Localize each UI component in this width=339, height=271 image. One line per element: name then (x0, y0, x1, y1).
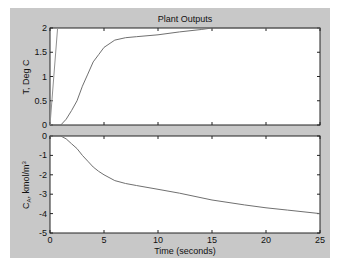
bottom-y-axis-label: CA, kmol/m3 (21, 160, 32, 209)
x-axis-label: Time (seconds) (154, 246, 216, 256)
bottom-plot-area (50, 136, 320, 233)
top-y-tick-labels: 21.510.50 (34, 23, 47, 130)
top-plot-area (50, 28, 320, 125)
y-tick-label: -4 (39, 209, 47, 219)
x-tick-labels: 0510152025 (47, 235, 325, 245)
bottom-y-tick-labels: 0-1-2-3-4-5 (39, 131, 47, 238)
y-tick-label: -5 (39, 228, 47, 238)
plant-outputs-chart: Plant Outputs 21.510.50 T, Deg C 0-1-2-3… (0, 0, 339, 271)
top-y-axis-label: T, Deg C (21, 59, 31, 95)
y-tick-label: 0 (42, 120, 47, 130)
x-tick-label: 10 (153, 235, 163, 245)
y-tick-label: -1 (39, 150, 47, 160)
top-axes: 21.510.50 T, Deg C (21, 23, 320, 130)
chart-title: Plant Outputs (158, 14, 213, 24)
y-tick-label: 2 (42, 23, 47, 33)
x-tick-label: 20 (261, 235, 271, 245)
y-tick-label: -3 (39, 189, 47, 199)
y-tick-label: 0.5 (34, 96, 47, 106)
x-tick-label: 25 (315, 235, 325, 245)
y-tick-label: 1 (42, 72, 47, 82)
x-tick-label: 0 (47, 235, 52, 245)
y-tick-label: 1.5 (34, 47, 47, 57)
bottom-axes: 0-1-2-3-4-5 0510152025 CA, kmol/m3 Time … (21, 131, 325, 256)
x-tick-label: 5 (101, 235, 106, 245)
y-tick-label: -2 (39, 170, 47, 180)
x-tick-label: 15 (207, 235, 217, 245)
y-tick-label: 0 (42, 131, 47, 141)
